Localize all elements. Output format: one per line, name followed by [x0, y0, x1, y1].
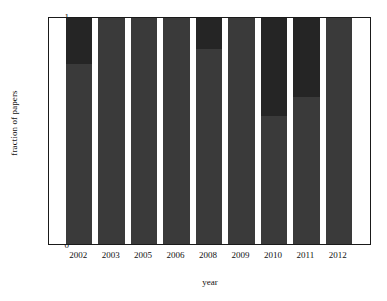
x-tick-label-2011: 2011 [296, 250, 314, 260]
bar-2005[interactable] [131, 18, 157, 244]
bar-segment-lower-segment-2010[interactable] [261, 116, 287, 245]
x-axis-title-text: year [202, 277, 218, 287]
bar-2009[interactable] [228, 18, 254, 244]
x-axis-title: year [48, 277, 372, 287]
bar-segment-lower-segment-2008[interactable] [196, 49, 222, 245]
plot-area [48, 17, 371, 245]
bar-segment-upper-segment-2002[interactable] [66, 18, 92, 64]
chart-figure: fraction of papers 00.20.40.60.81 200220… [0, 0, 387, 301]
bar-2006[interactable] [163, 18, 189, 244]
x-tick-label-2003: 2003 [102, 250, 120, 260]
y-axis-title-text: fraction of papers [9, 90, 19, 155]
y-axis-title: fraction of papers [4, 0, 24, 245]
x-tick-label-2005: 2005 [134, 250, 152, 260]
bar-segment-upper-segment-2008[interactable] [196, 18, 222, 49]
bar-segment-lower-segment-2003[interactable] [98, 18, 124, 245]
bar-2012[interactable] [326, 18, 352, 244]
bar-2011[interactable] [293, 18, 319, 244]
bar-segment-lower-segment-2006[interactable] [163, 18, 189, 245]
bar-segment-lower-segment-2011[interactable] [293, 97, 319, 245]
x-tick-label-2012: 2012 [329, 250, 347, 260]
x-tick-label-2002: 2002 [69, 250, 87, 260]
x-tick-label-2008: 2008 [199, 250, 217, 260]
bar-segment-lower-segment-2005[interactable] [131, 18, 157, 245]
bar-segment-lower-segment-2012[interactable] [326, 18, 352, 245]
bar-2002[interactable] [66, 18, 92, 244]
x-tick-label-2010: 2010 [264, 250, 282, 260]
bar-segment-lower-segment-2009[interactable] [228, 18, 254, 245]
x-tick-label-2009: 2009 [231, 250, 249, 260]
x-tick-label-2006: 2006 [167, 250, 185, 260]
bar-segment-lower-segment-2002[interactable] [66, 64, 92, 245]
bar-2010[interactable] [261, 18, 287, 244]
bar-2008[interactable] [196, 18, 222, 244]
bar-2003[interactable] [98, 18, 124, 244]
bar-segment-upper-segment-2010[interactable] [261, 18, 287, 116]
bar-segment-upper-segment-2011[interactable] [293, 18, 319, 97]
